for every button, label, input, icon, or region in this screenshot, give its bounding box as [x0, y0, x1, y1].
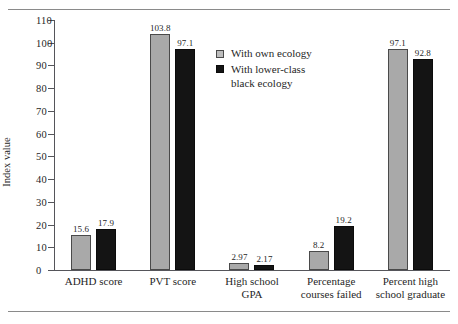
y-axis-tick-label: 90 [36, 60, 45, 71]
bars: 103.897.1 [133, 20, 212, 270]
bar-value-label: 17.9 [98, 218, 114, 228]
y-axis-tick-label: 100 [36, 37, 45, 48]
bar-with-own-ecology: 8.2 [309, 251, 329, 270]
y-axis-tick [48, 270, 54, 271]
bar-with-lower-class-black-ecology: 97.1 [175, 49, 195, 270]
x-axis-category-label: Percent high school graduate [362, 275, 458, 301]
bar-with-own-ecology: 103.8 [150, 34, 170, 270]
bar-value-label: 8.2 [313, 240, 325, 250]
bar-value-label: 2.97 [231, 252, 247, 262]
x-axis-line [54, 270, 450, 271]
y-axis-tick-label: 30 [36, 196, 45, 207]
bottom-rule [8, 311, 450, 312]
bar-value-label: 19.2 [336, 215, 352, 225]
bar-value-label: 97.1 [390, 38, 406, 48]
bar-with-own-ecology: 97.1 [388, 49, 408, 270]
bar-with-lower-class-black-ecology: 17.9 [96, 229, 116, 270]
bar-value-label: 103.8 [150, 23, 171, 33]
bar-with-lower-class-black-ecology: 2.17 [254, 265, 274, 270]
legend-item: With lower-class black ecology [216, 62, 312, 91]
y-axis-tick-label: 110 [36, 15, 45, 26]
bar-with-lower-class-black-ecology: 92.8 [413, 59, 433, 270]
bar-with-own-ecology: 2.97 [229, 263, 249, 270]
bars: 97.192.8 [371, 20, 450, 270]
y-axis-tick-label: 0 [36, 265, 45, 276]
bar-value-label: 92.8 [415, 48, 431, 58]
y-axis-tick-label: 40 [36, 174, 45, 185]
bar-with-lower-class-black-ecology: 19.2 [334, 226, 354, 270]
legend-swatch-own-ecology-icon [216, 50, 224, 58]
y-axis-tick-label: 80 [36, 83, 45, 94]
legend-label: With lower-class black ecology [231, 62, 305, 91]
y-axis-tick-label: 50 [36, 151, 45, 162]
bar-value-label: 97.1 [177, 38, 193, 48]
legend-swatch-lower-class-black-ecology-icon [216, 65, 224, 73]
bar-value-label: 2.17 [256, 254, 272, 264]
y-axis-tick-label: 10 [36, 242, 45, 253]
bar-group: 15.617.9ADHD score [54, 20, 133, 270]
bar-with-own-ecology: 15.6 [71, 235, 91, 270]
legend-label: With own ecology [231, 46, 312, 61]
bar-group: 97.192.8Percent high school graduate [371, 20, 450, 270]
figure: Index value 0102030405060708090100110 15… [0, 0, 458, 324]
legend: With own ecologyWith lower-class black e… [216, 46, 312, 91]
y-axis-title: Index value [1, 137, 12, 186]
y-axis-tick-label: 60 [36, 128, 45, 139]
legend-item: With own ecology [216, 46, 312, 61]
bar-value-label: 15.6 [73, 224, 89, 234]
bar-group: 103.897.1PVT score [133, 20, 212, 270]
y-axis-tick-label: 20 [36, 219, 45, 230]
y-axis-tick-label: 70 [36, 105, 45, 116]
top-rule [8, 9, 450, 10]
bars: 15.617.9 [54, 20, 133, 270]
